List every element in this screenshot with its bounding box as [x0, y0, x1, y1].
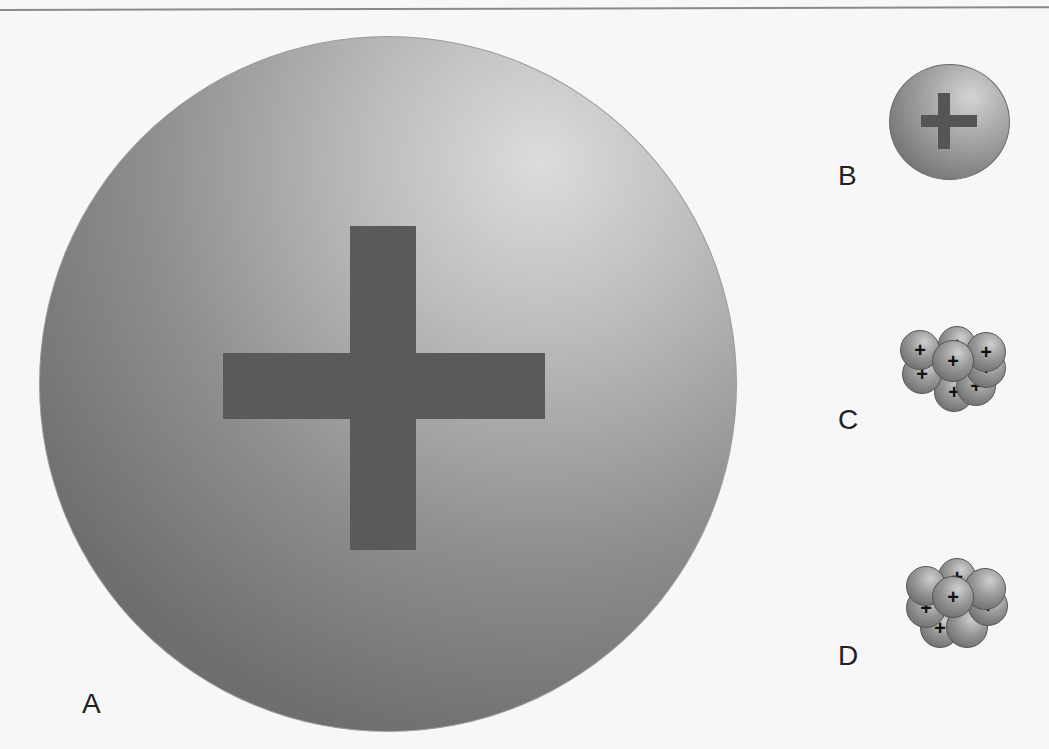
label-b: B	[838, 160, 857, 192]
cluster-d: + + + + +	[904, 556, 1014, 656]
ball: +	[932, 340, 974, 382]
ball: +	[932, 576, 974, 618]
plus-icon: +	[933, 341, 973, 381]
label-c: C	[838, 404, 858, 436]
top-border-line	[0, 6, 1049, 11]
small-sphere-b	[889, 64, 1010, 180]
label-d: D	[838, 640, 858, 672]
large-sphere-a	[39, 36, 737, 732]
cluster-c: + + + + + + + +	[900, 326, 1010, 426]
label-a: A	[82, 688, 101, 720]
plus-icon: +	[933, 577, 973, 617]
plus-icon-horizontal-bar	[921, 115, 977, 127]
plus-icon-horizontal-bar	[223, 353, 545, 419]
